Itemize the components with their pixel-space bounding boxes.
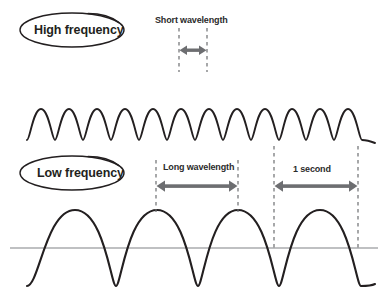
short-wavelength-measure xyxy=(179,28,207,72)
low-frequency-label: Low frequency xyxy=(37,167,124,180)
one-second-arrow xyxy=(275,180,358,191)
short-wavelength-arrow xyxy=(180,45,207,55)
high-frequency-label: High frequency xyxy=(34,24,124,37)
wave-diagram-svg xyxy=(0,0,386,297)
long-wavelength-label: Long wavelength xyxy=(163,163,234,172)
high-frequency-wave-path xyxy=(27,109,375,143)
short-wavelength-label: Short wavelength xyxy=(155,16,228,25)
long-wavelength-arrow xyxy=(157,180,238,191)
one-second-label: 1 second xyxy=(293,165,331,174)
wave-diagram-figure: High frequency Low frequency Short wavel… xyxy=(0,0,386,297)
high-frequency-wave xyxy=(27,109,375,143)
low-frequency-wave xyxy=(10,210,378,286)
